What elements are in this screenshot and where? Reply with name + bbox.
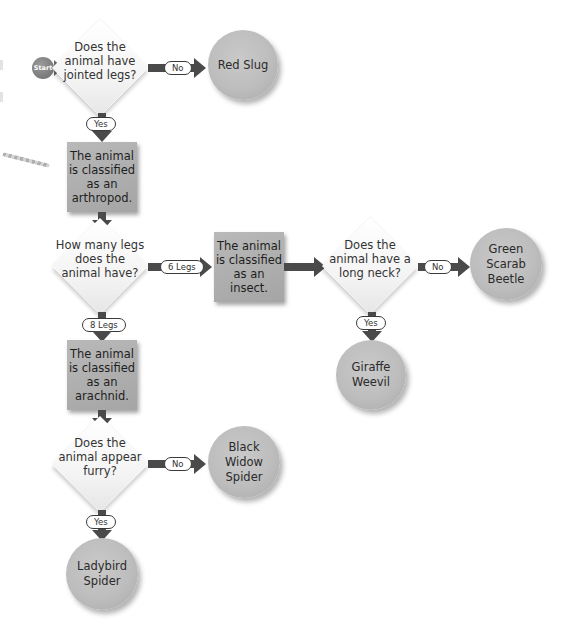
edge-label-q4-no: No (164, 457, 192, 471)
edge-label-q1-no: No (164, 61, 192, 75)
classification-arachnid: The animal is classified as an arachnid. (67, 340, 137, 410)
classification-insect: The animal is classified as an insect. (214, 232, 284, 302)
start-node: Start (32, 57, 54, 79)
decision-q1-text: Does the animal have jointed legs? (55, 40, 145, 82)
result-green-scarab-beetle: Green Scarab Beetle (470, 228, 542, 300)
edge-label-q3-no: No (424, 260, 452, 274)
start-label: Start (34, 64, 53, 72)
twig-decoration (2, 152, 50, 167)
result-red-slug: Red Slug (208, 30, 278, 100)
edge-mark (0, 92, 3, 102)
decision-q4-text: Does the animal appear furry? (55, 436, 145, 478)
edge-label-q3-yes: Yes (356, 316, 386, 330)
edge-label-q2-eight: 8 Legs (82, 318, 126, 332)
arrow-right-icon (194, 58, 206, 78)
arrow-right-icon (194, 454, 206, 474)
result-ladybird-spider: Ladybird Spider (66, 538, 138, 610)
edge-mark (0, 60, 3, 70)
arrow-down-icon (92, 131, 112, 142)
classification-arthropod-text: The animal is classified as an arthropod… (67, 149, 137, 205)
classification-arthropod: The animal is classified as an arthropod… (67, 142, 137, 212)
decision-q2-text: How many legs does the animal have? (55, 238, 145, 280)
result-black-widow-spider: Black Widow Spider (208, 426, 280, 498)
connector-c2-q3 (284, 263, 316, 271)
edge-label-q4-yes: Yes (86, 515, 116, 529)
classification-insect-text: The animal is classified as an insect. (214, 239, 284, 295)
edge-label-q1-yes: Yes (86, 117, 116, 131)
decision-q3-text: Does the animal have a long neck? (325, 238, 415, 280)
arrow-right-icon (458, 257, 470, 277)
classification-arachnid-text: The animal is classified as an arachnid. (67, 347, 137, 403)
edge-label-q2-six: 6 Legs (160, 260, 204, 274)
result-giraffe-weevil: Giraffe Weevil (336, 340, 406, 410)
